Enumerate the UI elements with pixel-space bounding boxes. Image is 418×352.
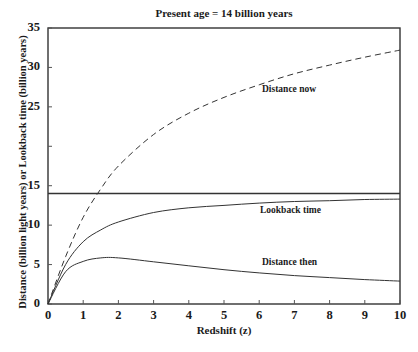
x-tick-label: 5 xyxy=(209,308,239,323)
annotation-lookback-time: Lookback time xyxy=(260,205,321,215)
axis-ticks xyxy=(48,28,400,304)
series-lookback-time xyxy=(48,199,400,304)
x-tick-label: 1 xyxy=(68,308,98,323)
y-tick-label: 35 xyxy=(10,20,40,35)
annotation-distance-then: Distance then xyxy=(262,257,317,267)
curves xyxy=(48,50,400,304)
x-tick-label: 8 xyxy=(315,308,345,323)
x-axis-label: Redshift (z) xyxy=(174,324,274,336)
x-tick-label: 2 xyxy=(103,308,133,323)
x-tick-label: 7 xyxy=(279,308,309,323)
x-tick-label: 3 xyxy=(139,308,169,323)
chart-title: Present age = 14 billion years xyxy=(0,7,418,19)
cosmology-chart: Present age = 14 billion years 051015253… xyxy=(0,0,418,352)
annotation-distance-now: Distance now xyxy=(262,84,316,94)
x-tick-label: 4 xyxy=(174,308,204,323)
x-tick-label: 9 xyxy=(350,308,380,323)
series-distance-now xyxy=(48,50,400,304)
series-distance-then xyxy=(48,257,400,304)
plot-frame xyxy=(48,28,400,304)
x-tick-label: 10 xyxy=(385,308,415,323)
y-axis-label: Distance (billion light years) or Lookba… xyxy=(17,35,28,308)
plot-area xyxy=(0,0,418,352)
x-tick-label: 6 xyxy=(244,308,274,323)
x-tick-label: 0 xyxy=(33,308,63,323)
